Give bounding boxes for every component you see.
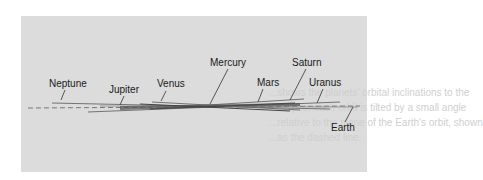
mars-leader <box>258 89 263 102</box>
label-mars: Mars <box>257 77 279 88</box>
uranus-leader <box>317 89 323 103</box>
label-venus: Venus <box>157 78 185 89</box>
label-jupiter: Jupiter <box>109 84 139 95</box>
venus-leader <box>161 91 166 101</box>
earth-leader <box>345 107 353 122</box>
label-uranus: Uranus <box>309 77 341 88</box>
jupiter-leader <box>120 96 124 105</box>
saturn-leader <box>290 69 306 100</box>
mercury-leader <box>210 69 228 104</box>
neptune-leader <box>61 90 65 100</box>
label-neptune: Neptune <box>49 78 87 89</box>
label-saturn: Saturn <box>292 57 321 68</box>
label-mercury: Mercury <box>210 57 246 68</box>
label-earth: Earth <box>331 122 355 133</box>
